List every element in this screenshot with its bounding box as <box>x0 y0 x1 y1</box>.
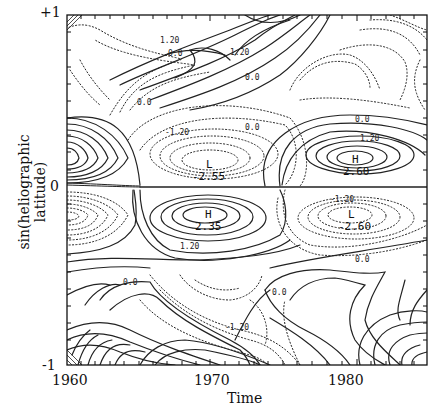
label-1.20-north-top2: 1.20 <box>230 48 249 57</box>
contour-figure: 1.20 1.20 1.20 1.20 -1.20 -1.20 -1.20 0.… <box>0 0 440 411</box>
contour-plot: 1.20 1.20 1.20 1.20 -1.20 -1.20 -1.20 0.… <box>0 0 440 411</box>
negative-contours-north-upper-right <box>290 15 427 110</box>
hatched-corner-top-left <box>67 15 82 30</box>
positive-contours-south-H1 <box>67 190 300 262</box>
y-axis-label: sin(heliographic latitude) <box>16 112 48 272</box>
positive-contours-north-upper <box>110 15 330 110</box>
label-1.20-south-H1: 1.20 <box>180 242 199 251</box>
equator-band <box>67 183 427 187</box>
x-tick-1980: 1980 <box>328 372 364 388</box>
label-1.20-north-H2: 1.20 <box>360 134 379 143</box>
x-tick-1970: 1970 <box>194 372 230 388</box>
positive-contours-north-left <box>67 117 140 185</box>
label-0.0-a: 0.0 <box>168 49 183 58</box>
axis-ticks <box>67 15 427 365</box>
extremum-H2-value: 2.60 <box>343 165 370 178</box>
label-neg1.20-south: -1.20 <box>330 195 354 204</box>
x-axis-label: Time <box>227 390 262 406</box>
negative-contours-north-L1 <box>67 25 307 186</box>
label-0.0-c: 0.0 <box>245 73 260 82</box>
extremum-L1-value: -2.55 <box>192 170 225 183</box>
y-tick-zero: 0 <box>50 178 59 194</box>
plot-frame <box>67 15 427 365</box>
label-0.0-f: 0.0 <box>123 278 138 287</box>
label-neg1.20-north: -1.20 <box>165 128 189 137</box>
label-0.0-b: 0.0 <box>137 98 152 107</box>
label-0.0-g: 0.0 <box>355 255 370 264</box>
label-1.20-north-top: 1.20 <box>160 36 179 45</box>
label-neg1.20-south-low: -1.20 <box>225 323 249 332</box>
extremum-L2-value: -2.60 <box>338 220 371 233</box>
y-tick-top: +1 <box>40 4 61 20</box>
label-0.0-h: 0.0 <box>272 288 287 297</box>
y-tick-bottom: -1 <box>42 357 56 373</box>
negative-contours-south-left <box>67 192 128 245</box>
positive-contours-south-lower-right <box>265 270 427 365</box>
extremum-H1-value: 2.35 <box>195 220 222 233</box>
x-tick-1960: 1960 <box>52 372 88 388</box>
label-0.0-e: 0.0 <box>245 123 260 132</box>
label-0.0-d: 0.0 <box>355 115 370 124</box>
